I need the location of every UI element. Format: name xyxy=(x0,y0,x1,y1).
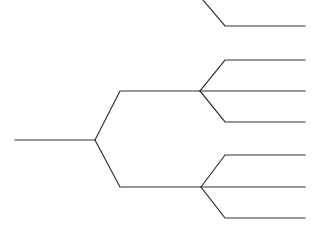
tree-edge-root-to-lower xyxy=(95,140,201,187)
tree-edge-root-to-upper xyxy=(95,91,200,140)
tree-diagram xyxy=(0,0,321,240)
tree-edge-upper-leaf-1 xyxy=(200,60,305,91)
tree-edge-top-offscreen xyxy=(203,0,305,26)
tree-edge-lower-leaf-1 xyxy=(201,155,305,187)
tree-edge-upper-leaf-3 xyxy=(200,91,305,122)
tree-edge-lower-leaf-3 xyxy=(201,187,305,218)
tree-diagram-svg xyxy=(0,0,321,240)
